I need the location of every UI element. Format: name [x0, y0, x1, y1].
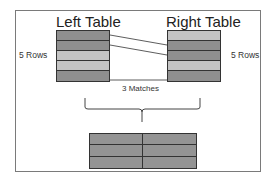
result-cell: [143, 134, 196, 145]
result-table: [89, 133, 197, 169]
brace-icon: [85, 98, 200, 122]
result-cell: [143, 145, 196, 156]
match-count-label: 3 Matches: [122, 84, 159, 93]
result-cell: [90, 134, 143, 145]
match-line-1: [110, 35, 167, 45]
result-cell: [90, 145, 143, 156]
result-cell: [90, 157, 143, 168]
result-cell: [143, 157, 196, 168]
match-line-2: [110, 45, 167, 55]
